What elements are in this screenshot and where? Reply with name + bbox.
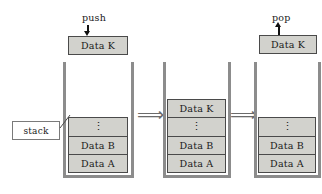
stack-callout-leader-line [60,112,72,132]
transition-arrow-1-icon: ⟹ [137,105,164,124]
stack-cell-data-b: Data B [258,136,316,155]
stack-cell-data-a: Data A [167,154,226,173]
stack-left-wall-2 [163,62,166,178]
push-floating-item: Data K [68,36,128,55]
stack-left-wall-3 [254,62,257,178]
stack-cell-data-a: Data A [68,154,128,173]
stack-callout-label: stack [12,121,60,140]
stack-right-wall-3 [318,62,321,178]
stack-operations-diagram: push Data K ⋮ Data B Data A stack ⟹ Data… [0,0,322,194]
stack-cell-data-b: Data B [68,136,128,155]
stack-floor-2 [163,175,231,178]
stack-cell-data-b: Data B [167,136,226,155]
stack-cell-ellipsis: ⋮ [167,117,226,137]
stack-cell-ellipsis: ⋮ [68,117,128,137]
stack-right-wall-1 [131,62,134,178]
push-operation-label: push [82,12,106,23]
stack-cell-ellipsis: ⋮ [258,117,316,137]
stack-cell-data-a: Data A [258,154,316,173]
pop-floating-item: Data K [259,35,317,54]
pop-arrow-shaft [278,27,280,35]
stack-floor-1 [63,175,134,178]
pop-arrow-head-icon [275,22,281,27]
stack-floor-3 [254,175,321,178]
stack-cell-data-k: Data K [167,99,226,118]
